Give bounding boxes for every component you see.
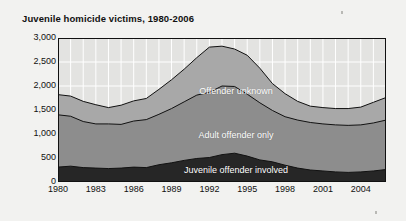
decorative-speck-bottom-right bbox=[375, 211, 377, 214]
y-tick-label: 2,000 bbox=[6, 80, 56, 90]
x-tick-label: 1980 bbox=[48, 184, 68, 194]
x-tick-label: 1983 bbox=[86, 184, 106, 194]
x-tick-label: 1992 bbox=[199, 184, 219, 194]
series-label-juvenile-offender-involved: Juvenile offender involved bbox=[184, 165, 288, 175]
x-tick-label: 2004 bbox=[351, 184, 371, 194]
y-tick-label: 1,500 bbox=[6, 104, 56, 114]
y-tick-label: 1,000 bbox=[6, 128, 56, 138]
x-tick-label: 2001 bbox=[313, 184, 333, 194]
x-tick-label: 1995 bbox=[237, 184, 257, 194]
decorative-speck-top-right bbox=[341, 11, 343, 14]
y-tick-label: 3,000 bbox=[6, 32, 56, 42]
x-tick-label: 1998 bbox=[275, 184, 295, 194]
x-tick-label: 1989 bbox=[161, 184, 181, 194]
series-label-offender-unknown: Offender unknown bbox=[199, 86, 272, 96]
series-label-adult-offender-only: Adult offender only bbox=[199, 130, 274, 140]
chart-figure: Juvenile homicide victims, 1980-2006 3,0… bbox=[0, 0, 406, 221]
y-tick-label: 2,500 bbox=[6, 56, 56, 66]
plot-area: Offender unknown Adult offender only Juv… bbox=[58, 38, 386, 182]
x-tick-label: 1986 bbox=[124, 184, 144, 194]
stacked-area-chart bbox=[58, 38, 386, 182]
x-axis: 198019831986198919921995199820012004 bbox=[58, 184, 386, 200]
y-tick-label: 500 bbox=[6, 152, 56, 162]
